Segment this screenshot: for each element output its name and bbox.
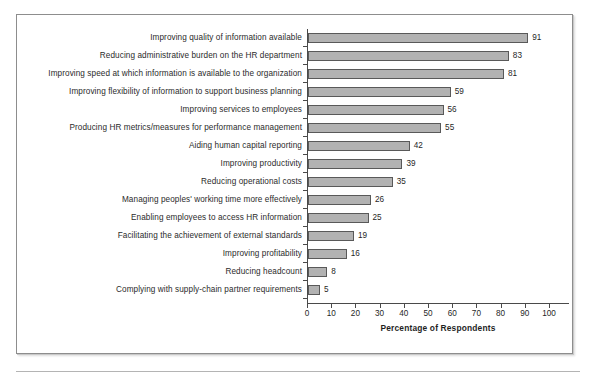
x-axis-tick-label: 30 [375,309,384,318]
x-axis-tick-label: 70 [472,309,481,318]
x-axis-ticks: 0102030405060708090100 [17,15,574,355]
x-axis-tick [476,304,477,308]
x-axis-tick-label: 10 [327,309,336,318]
bar-chart: Improving quality of information availab… [17,15,574,355]
figure-frame: Improving quality of information availab… [16,14,573,354]
x-axis-tick [428,304,429,308]
x-axis-tick-label: 90 [520,309,529,318]
x-axis-tick [331,304,332,308]
x-axis-tick [501,304,502,308]
x-axis-tick [355,304,356,308]
x-axis-tick [452,304,453,308]
x-axis-tick [380,304,381,308]
x-axis-tick-label: 60 [448,309,457,318]
x-axis-tick-label: 20 [351,309,360,318]
x-axis-tick [549,304,550,308]
x-axis-tick [307,304,308,308]
footer-divider [16,371,580,372]
x-axis-tick [404,304,405,308]
x-axis-tick-label: 50 [423,309,432,318]
x-axis-tick-label: 0 [305,309,310,318]
x-axis-tick-label: 100 [542,309,556,318]
x-axis-title: Percentage of Respondents [307,323,569,333]
x-axis-tick [525,304,526,308]
x-axis-tick-label: 40 [399,309,408,318]
x-axis-tick-label: 80 [496,309,505,318]
